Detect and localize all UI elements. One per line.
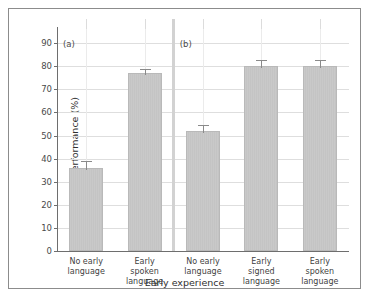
bar [244, 66, 278, 251]
error-bar [320, 60, 321, 68]
figure-frame: Task performance (%) Early experience (a… [8, 8, 361, 289]
x-category-label-line: language [57, 267, 115, 277]
y-tick-label: 60 [41, 108, 52, 117]
panel-label-a: (a) [63, 39, 75, 49]
y-tick-mark [54, 89, 57, 90]
y-tick-label: 20 [41, 201, 52, 210]
y-tick-label: 30 [41, 177, 52, 186]
x-category-label: No earlylanguage [174, 257, 232, 277]
bar [303, 66, 337, 251]
y-tick-label: 80 [41, 62, 52, 71]
x-category-label-line: signed [232, 267, 290, 277]
top-gridline [261, 19, 262, 29]
x-category-label-line: language [174, 267, 232, 277]
error-bar [86, 161, 87, 170]
x-category-label: Earlyspokenlanguage [115, 257, 173, 287]
y-tick-mark [54, 159, 57, 160]
y-tick-mark [54, 182, 57, 183]
panel-divider [172, 19, 175, 251]
y-tick-mark [54, 66, 57, 67]
plot-area: (a) (b) 0102030405060708090No earlylangu… [57, 27, 349, 251]
y-tick-label: 70 [41, 85, 52, 94]
x-category-label-line: No early [174, 257, 232, 267]
y-tick-label: 0 [47, 247, 52, 256]
x-category-label-line: Early [232, 257, 290, 267]
y-axis-line [57, 27, 58, 251]
y-tick-mark [54, 251, 57, 252]
y-tick-mark [54, 205, 57, 206]
x-category-label-line: language [232, 277, 290, 287]
plot-inner [57, 27, 349, 251]
bar [69, 168, 103, 251]
x-category-label: No earlylanguage [57, 257, 115, 277]
bar [128, 73, 162, 251]
y-tick-mark [54, 228, 57, 229]
top-gridline [86, 19, 87, 29]
error-bar [203, 125, 204, 133]
y-tick-mark [54, 136, 57, 137]
top-gridline [203, 19, 204, 29]
x-category-label: Earlysignedlanguage [232, 257, 290, 287]
x-category-label-line: Early [115, 257, 173, 267]
y-tick-label: 50 [41, 131, 52, 140]
error-bar-cap [256, 60, 267, 61]
error-bar-cap [198, 125, 209, 126]
error-bar [261, 60, 262, 68]
figure-canvas: Task performance (%) Early experience (a… [0, 0, 369, 297]
panel-label-b: (b) [180, 39, 192, 49]
y-tick-mark [54, 43, 57, 44]
x-category-label-line: language [115, 277, 173, 287]
x-category-label-line: No early [57, 257, 115, 267]
bar [186, 131, 220, 251]
y-tick-mark [54, 112, 57, 113]
error-bar-cap [315, 60, 326, 61]
error-bar-cap [140, 69, 151, 70]
y-tick-label: 90 [41, 39, 52, 48]
x-category-label-line: spoken [115, 267, 173, 277]
x-category-label-line: spoken [291, 267, 349, 277]
y-tick-label: 10 [41, 224, 52, 233]
x-category-label-line: Early [291, 257, 349, 267]
x-category-label: Earlyspokenlanguage [291, 257, 349, 287]
top-gridline [320, 19, 321, 29]
x-category-label-line: language [291, 277, 349, 287]
x-axis-line [57, 251, 349, 252]
error-bar-cap [81, 161, 92, 162]
top-gridline [145, 19, 146, 29]
y-tick-label: 40 [41, 154, 52, 163]
